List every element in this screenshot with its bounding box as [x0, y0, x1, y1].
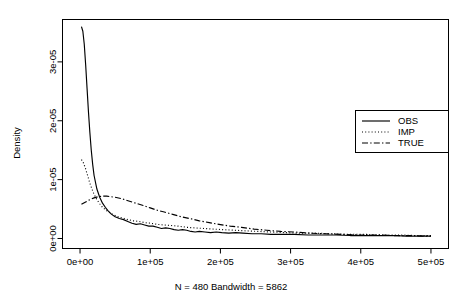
legend-label-obs: OBS	[398, 115, 418, 126]
x-tick-label: 4e+05	[347, 256, 374, 267]
x-tick-label: 0e+00	[67, 256, 94, 267]
y-axis-title: Density	[11, 127, 22, 159]
x-tick-label: 5e+05	[418, 256, 445, 267]
legend-label-imp: IMP	[398, 126, 415, 137]
x-tick-label: 2e+05	[207, 256, 234, 267]
y-tick-label: 3e-05	[47, 50, 58, 74]
y-tick-label: 2e-05	[47, 109, 58, 133]
y-tick-label: 1e-05	[47, 167, 58, 191]
density-plot-figure: 0e+001e+052e+053e+054e+055e+05 0e+001e-0…	[0, 0, 462, 305]
y-tick-label: 0e+00	[47, 225, 58, 252]
chart-canvas: 0e+001e+052e+053e+054e+055e+05 0e+001e-0…	[0, 0, 462, 305]
legend: OBSIMPTRUE	[356, 111, 449, 153]
x-tick-label: 1e+05	[137, 256, 164, 267]
x-tick-label: 3e+05	[277, 256, 304, 267]
legend-label-true: TRUE	[398, 137, 424, 148]
plot-subtitle: N = 480 Bandwidth = 5862	[175, 281, 288, 292]
